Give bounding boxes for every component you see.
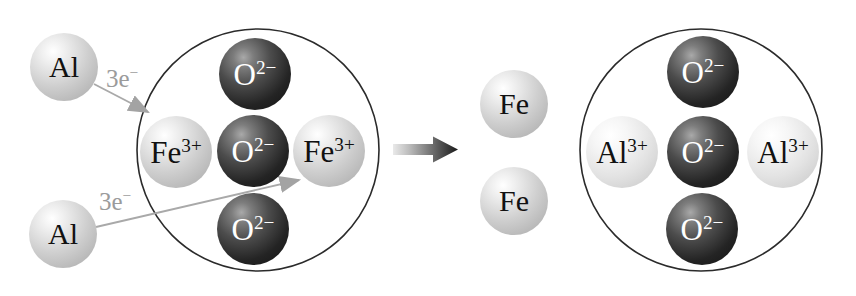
- label-sup: 2−: [254, 211, 274, 232]
- label-base: O: [234, 57, 256, 92]
- reactant-al-atom-1-label: Al: [49, 52, 79, 82]
- label-base: O: [682, 135, 704, 170]
- fe2o3-iron-ion-right: Fe3+: [293, 115, 365, 187]
- label-base: O: [232, 212, 254, 247]
- reactant-al-atom-2: Al: [29, 200, 97, 268]
- aluminum-ion-label: Al3+: [757, 137, 808, 168]
- label-base: O: [232, 134, 254, 169]
- oxide-ion-label: O2−: [682, 57, 725, 88]
- product-fe-atom-2: Fe: [480, 167, 548, 235]
- oxide-ion-label: O2−: [232, 214, 275, 245]
- label-base: Al: [48, 217, 78, 250]
- al2o3-aluminum-ion-left: Al3+: [586, 116, 658, 188]
- oxide-ion-label: O2−: [234, 59, 277, 90]
- label-base: Al: [757, 135, 788, 170]
- electron-count-label-1: 3e−: [106, 66, 138, 91]
- al2o3-oxide-ion-top: O2−: [667, 36, 739, 108]
- oxide-ion-label: O2−: [682, 137, 725, 168]
- product-fe-atom-1-label: Fe: [499, 89, 529, 119]
- oxide-ion-label: O2−: [232, 136, 275, 167]
- label-base: Al: [49, 50, 79, 83]
- label-base: Al: [596, 135, 627, 170]
- reaction-arrow: [393, 137, 458, 163]
- iron-ion-label: Fe3+: [150, 137, 201, 168]
- iron-ion-label: Fe3+: [303, 136, 354, 167]
- label-base: O: [682, 55, 704, 90]
- fe2o3-oxide-ion-center: O2−: [217, 115, 289, 187]
- label-sup: 3+: [181, 134, 201, 155]
- label-base: Fe: [303, 134, 334, 169]
- product-fe-atom-2-label: Fe: [499, 186, 529, 216]
- label-base: O: [681, 212, 703, 247]
- thermite-electron-transfer-diagram: Al Al 3e− 3e− O2− Fe3+ O2− Fe3+ O2− Fe F…: [0, 0, 856, 296]
- reactant-al-atom-1: Al: [30, 33, 98, 101]
- al2o3-aluminum-ion-right: Al3+: [747, 116, 819, 188]
- label-sup: 2−: [254, 133, 274, 154]
- label-sup: 3+: [334, 133, 354, 154]
- label-base: 3e: [106, 65, 130, 92]
- oxide-ion-label: O2−: [681, 214, 724, 245]
- label-sup: 2−: [703, 211, 723, 232]
- reactant-al-atom-2-label: Al: [48, 219, 78, 249]
- al2o3-oxide-ion-bottom: O2−: [666, 193, 738, 265]
- aluminum-ion-label: Al3+: [596, 137, 647, 168]
- fe2o3-iron-ion-left: Fe3+: [140, 116, 212, 188]
- product-fe-atom-1: Fe: [480, 70, 548, 138]
- label-sup: 2−: [704, 134, 724, 155]
- label-sup: 3+: [788, 134, 808, 155]
- label-sup: 2−: [704, 54, 724, 75]
- label-sup: −: [130, 64, 139, 81]
- label-base: Fe: [499, 184, 529, 217]
- fe2o3-oxide-ion-bottom: O2−: [217, 193, 289, 265]
- label-base: Fe: [150, 135, 181, 170]
- label-sup: 2−: [256, 56, 276, 77]
- label-sup: −: [123, 187, 132, 204]
- fe2o3-oxide-ion-top: O2−: [219, 38, 291, 110]
- label-sup: 3+: [627, 134, 647, 155]
- label-base: Fe: [499, 87, 529, 120]
- electron-count-label-2: 3e−: [99, 189, 131, 214]
- al2o3-oxide-ion-center: O2−: [667, 116, 739, 188]
- label-base: 3e: [99, 188, 123, 215]
